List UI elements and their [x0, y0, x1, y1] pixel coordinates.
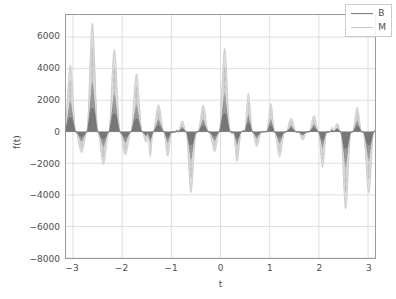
chart-figure: 6000400020000−2000−4000−6000−8000 −3−2−1…	[0, 0, 396, 299]
plot-area	[65, 14, 376, 259]
legend-line-swatch	[351, 27, 373, 28]
plot-canvas	[66, 15, 375, 258]
y-tick-label: 6000	[8, 32, 60, 41]
y-tick-label: −6000	[8, 223, 60, 232]
x-tick-label: −1	[151, 264, 191, 273]
legend-line-swatch	[351, 13, 373, 14]
legend-label: B	[378, 9, 384, 18]
x-tick-label: −3	[52, 264, 92, 273]
legend-label: M	[378, 23, 386, 32]
x-tick-label: −2	[102, 264, 142, 273]
y-tick-label: 2000	[8, 96, 60, 105]
x-tick-label: 0	[201, 264, 241, 273]
legend-item: M	[351, 22, 386, 33]
x-tick-label: 2	[299, 264, 339, 273]
y-tick-label: 4000	[8, 64, 60, 73]
y-axis-label: f(t)	[12, 135, 22, 149]
legend-item: B	[351, 8, 386, 19]
y-tick-label: −4000	[8, 191, 60, 200]
x-tick-label: 3	[349, 264, 389, 273]
x-tick-label: 1	[250, 264, 290, 273]
legend: B M	[345, 4, 392, 37]
y-tick-label: −8000	[8, 255, 60, 264]
x-axis-label: t	[65, 279, 376, 289]
gridlines	[66, 15, 375, 258]
y-tick-label: −2000	[8, 160, 60, 169]
